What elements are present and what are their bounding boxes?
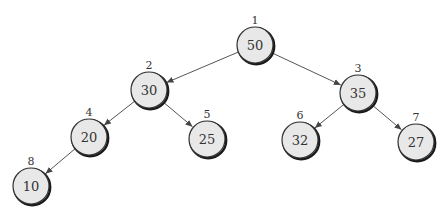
node-value: 32 — [292, 133, 309, 148]
tree-node-4: 204 — [71, 106, 108, 157]
edge-3-to-7 — [372, 105, 402, 130]
tree-node-8: 108 — [13, 155, 50, 206]
node-value: 25 — [199, 132, 216, 147]
edge-4-to-8 — [46, 149, 76, 174]
node-value: 20 — [81, 130, 98, 145]
tree-node-2: 302 — [131, 59, 168, 110]
node-index-label: 2 — [146, 59, 153, 72]
node-index-label: 4 — [86, 106, 93, 119]
edge-2-to-5 — [163, 102, 193, 127]
tree-diagram: 501302353204255326277108 — [0, 0, 446, 217]
node-index-label: 8 — [28, 155, 35, 168]
node-value: 35 — [350, 86, 367, 101]
tree-node-7: 277 — [398, 111, 435, 162]
edge-1-to-2 — [167, 52, 239, 83]
node-index-label: 6 — [297, 109, 304, 122]
tree-node-1: 501 — [237, 14, 274, 65]
node-index-label: 7 — [413, 111, 420, 124]
node-index-label: 5 — [204, 108, 211, 121]
tree-node-6: 326 — [282, 109, 319, 160]
node-index-label: 3 — [355, 62, 362, 75]
node-value: 30 — [141, 83, 158, 98]
tree-node-3: 353 — [340, 62, 377, 113]
edges-layer — [46, 52, 402, 174]
node-value: 50 — [247, 38, 264, 53]
edge-2-to-4 — [104, 101, 135, 125]
node-value: 27 — [408, 135, 425, 150]
tree-node-5: 255 — [189, 108, 226, 159]
node-value: 10 — [23, 179, 40, 194]
node-index-label: 1 — [252, 14, 259, 27]
edge-3-to-6 — [315, 104, 344, 128]
edge-1-to-3 — [271, 53, 341, 85]
nodes-layer: 501302353204255326277108 — [13, 14, 435, 206]
